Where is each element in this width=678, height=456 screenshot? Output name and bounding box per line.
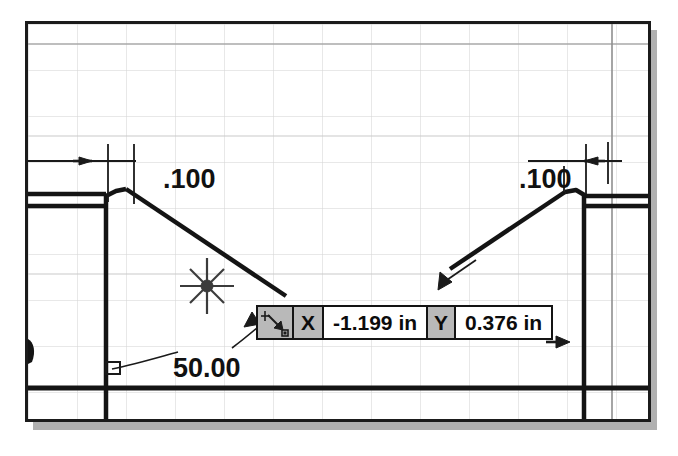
geometry-layer xyxy=(28,24,648,419)
dimension-angle-label: 50.00 xyxy=(173,353,241,384)
cursor-arrow-icon[interactable] xyxy=(258,307,294,338)
cad-screenshot: .100 .100 50.00 1 X -1.199 in Y 0.376 in xyxy=(0,0,678,456)
snap-point-marker xyxy=(180,258,234,314)
drawing-canvas[interactable]: .100 .100 50.00 1 xyxy=(25,21,651,422)
coordinate-input-widget[interactable]: X -1.199 in Y 0.376 in xyxy=(256,305,553,340)
profile-left xyxy=(28,189,286,419)
left-edge-glyph xyxy=(28,339,34,364)
x-coordinate-input[interactable]: -1.199 in xyxy=(324,307,426,338)
dimension-right-width-label: .100 xyxy=(519,164,572,195)
y-coordinate-input[interactable]: 0.376 in xyxy=(456,307,551,338)
x-axis-label: X xyxy=(294,307,324,338)
dimension-left-width-label: .100 xyxy=(163,164,216,195)
right-edge-marker-label: 1 xyxy=(648,357,651,386)
y-axis-label: Y xyxy=(426,307,456,338)
